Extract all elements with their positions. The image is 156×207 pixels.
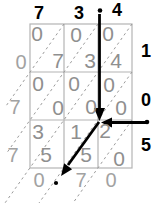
- cell-r0c2-tens: 0: [102, 23, 114, 44]
- cell-r2c1-tens: 1: [70, 121, 82, 142]
- cell-r1c2-tens: 0: [103, 74, 115, 95]
- multiplier-digit-1: 0: [141, 91, 151, 109]
- cell-r2c0-units: 5: [40, 144, 52, 165]
- cell-r1c2-units: 0: [115, 97, 127, 118]
- marker-dot-top: [98, 8, 103, 13]
- multiplicand-digit-2: 4: [112, 1, 122, 19]
- multiplier-digit-0: 1: [141, 42, 151, 60]
- cell-r1c0-units: 0: [52, 97, 64, 118]
- product-digit-left-1: 7: [9, 97, 20, 117]
- cell-r2c2-tens: 2: [99, 120, 111, 141]
- product-digit-bottom-1: 7: [75, 170, 86, 190]
- multiplier-digit-2: 5: [141, 136, 151, 154]
- marker-dot-right: [145, 120, 150, 125]
- cell-r0c2-units: 4: [110, 50, 122, 71]
- cell-r2c0-tens: 3: [32, 121, 44, 142]
- cell-r2c1-units: 5: [80, 144, 92, 165]
- cell-r1c1-tens: 0: [68, 73, 80, 94]
- product-digit-bottom-2: 0: [105, 170, 116, 190]
- cell-r1c1-units: 0: [85, 96, 97, 117]
- cell-r1c0-tens: 0: [32, 73, 44, 94]
- cell-r0c1-units: 3: [84, 50, 96, 71]
- product-digit-left-2: 7: [7, 145, 18, 165]
- multiplicand-digit-0: 7: [34, 4, 44, 22]
- product-digit-left-0: 0: [15, 52, 26, 72]
- product-digit-bottom-0: 0: [33, 170, 44, 190]
- cell-r0c0-units: 7: [52, 50, 64, 71]
- cell-r2c2-units: 0: [113, 148, 125, 169]
- cell-r0c0-tens: 0: [31, 23, 43, 44]
- marker-dot-bottom: [54, 181, 58, 185]
- multiplicand-digit-1: 3: [74, 4, 84, 22]
- cell-r0c1-tens: 0: [70, 24, 82, 45]
- lattice-multiplication-diagram: 7 3 4 1 0 5 0 7 7 0 7 0 0 7 0 3 0 4 0 0 …: [0, 0, 156, 207]
